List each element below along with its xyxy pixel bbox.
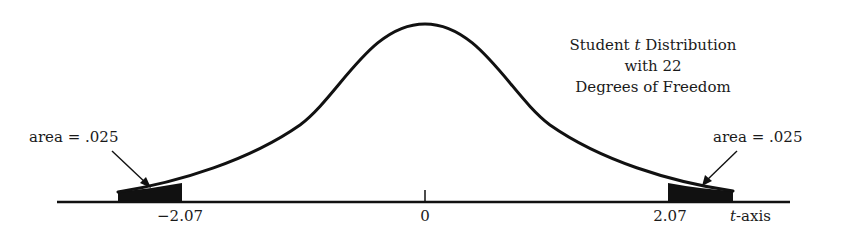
chart-title-line-2: with 22 <box>624 57 681 75</box>
x-axis-label: t-axis <box>730 207 771 225</box>
left-area-arrow <box>112 151 151 188</box>
tick-label-negative: −2.07 <box>157 207 203 225</box>
chart-title-line-1: Student t Distribution <box>569 36 736 54</box>
chart-title-line-3: Degrees of Freedom <box>575 78 730 96</box>
right-area-arrow <box>702 151 737 186</box>
tick-label-zero: 0 <box>420 207 430 225</box>
left-area-label: area = .025 <box>29 128 118 146</box>
t-distribution-chart: Student t Distribution with 22 Degrees o… <box>0 0 865 241</box>
tick-label-positive: 2.07 <box>653 207 686 225</box>
right-area-label: area = .025 <box>713 128 802 146</box>
